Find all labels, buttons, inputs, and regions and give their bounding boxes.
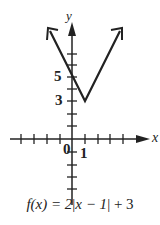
caption-suffix: + 3 — [110, 196, 133, 212]
x-axis-label: x — [152, 130, 158, 146]
y-axis-arrow-icon — [68, 22, 76, 36]
caption-abs-content: x − 1 — [75, 196, 107, 212]
graph-canvas — [0, 0, 160, 225]
y-tick-label-3: 3 — [55, 92, 63, 109]
x-axis-arrow-icon — [136, 135, 150, 143]
function-graph — [50, 31, 120, 101]
y-tick-label-5: 5 — [54, 68, 62, 85]
y-axis-label: y — [66, 8, 72, 24]
origin-label: 0 — [63, 141, 71, 158]
x-tick-label-1: 1 — [80, 145, 88, 162]
function-caption: f(x) = 2|x − 1| + 3 — [0, 196, 160, 213]
caption-prefix: f(x) = 2 — [26, 196, 72, 212]
